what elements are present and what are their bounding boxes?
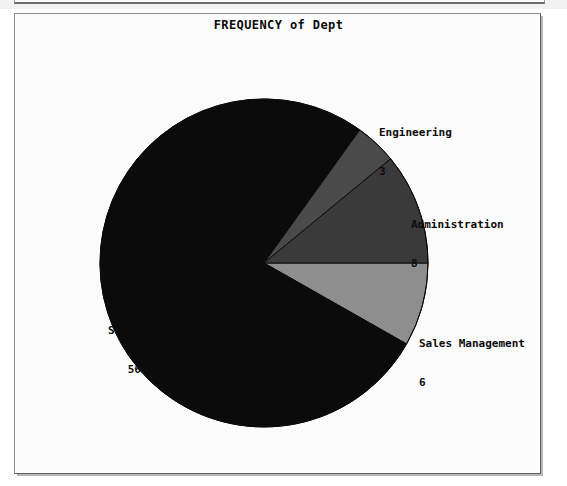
pie-label-sales-name: Sales bbox=[21, 324, 141, 337]
pie-label-sales: Sales 56 bbox=[21, 298, 141, 402]
underlying-window-edge bbox=[0, 0, 567, 9]
chart-window: FREQUENCY of Dept Engineering 3 Administ… bbox=[14, 13, 541, 474]
pie-chart-plot-area: Engineering 3 Administration 8 Sales Man… bbox=[15, 14, 542, 475]
pie-label-sales-management: Sales Management 6 bbox=[419, 311, 525, 415]
pie-label-sales-management-value: 6 bbox=[419, 376, 525, 389]
pie-label-administration: Administration 8 bbox=[411, 192, 504, 296]
underlying-window-edge-inner bbox=[14, 0, 545, 4]
pie-label-sales-management-name: Sales Management bbox=[419, 337, 525, 350]
pie-label-engineering: Engineering 3 bbox=[379, 100, 452, 204]
pie-label-administration-value: 8 bbox=[411, 257, 504, 270]
pie-label-engineering-value: 3 bbox=[379, 165, 452, 178]
pie-label-administration-name: Administration bbox=[411, 218, 504, 231]
pie-label-engineering-name: Engineering bbox=[379, 126, 452, 139]
pie-label-sales-value: 56 bbox=[21, 363, 141, 376]
